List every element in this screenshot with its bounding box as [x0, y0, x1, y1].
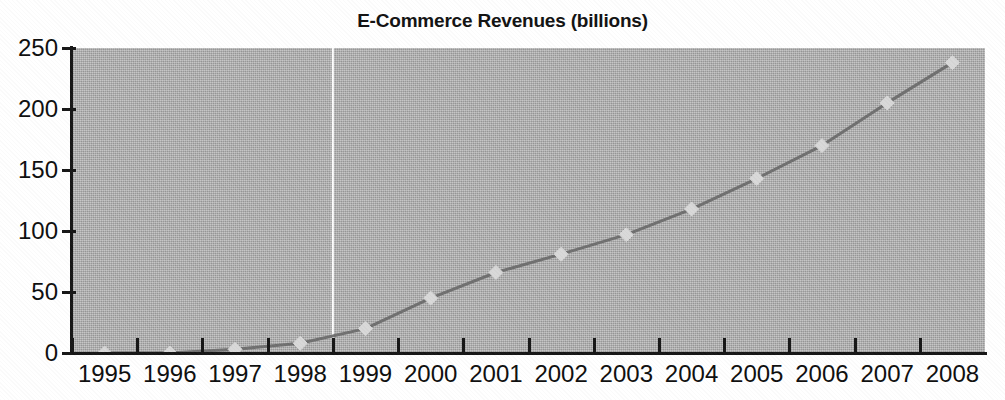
- x-axis-tick-label: 1999: [339, 360, 392, 388]
- x-axis-tick: [528, 338, 531, 353]
- x-axis-tick-label: 1995: [78, 360, 131, 388]
- x-axis-tick: [854, 338, 857, 353]
- data-point-marker: [750, 172, 764, 186]
- x-axis-tick-label: 2008: [926, 360, 979, 388]
- x-axis-tick: [267, 338, 270, 353]
- x-axis-tick-label: 2006: [795, 360, 848, 388]
- x-axis-tick-label: 2002: [534, 360, 587, 388]
- data-point-marker: [293, 336, 307, 350]
- x-axis-tick: [593, 338, 596, 353]
- data-point-marker: [424, 291, 438, 305]
- data-point-marker: [685, 202, 699, 216]
- x-axis-tick: [723, 338, 726, 353]
- data-point-marker: [945, 56, 959, 70]
- y-axis-tick-label: 200: [18, 95, 58, 123]
- x-axis-tick-label: 2005: [730, 360, 783, 388]
- y-axis-tick-label: 100: [18, 217, 58, 245]
- y-axis-tick: [62, 108, 76, 111]
- x-axis-tick-label: 1996: [143, 360, 196, 388]
- x-axis-tick: [136, 338, 139, 353]
- y-axis-tick: [62, 169, 76, 172]
- x-axis-tick: [397, 338, 400, 353]
- x-axis-tick-label: 2000: [404, 360, 457, 388]
- data-series-svg: [72, 48, 985, 353]
- x-axis-tick-label: 2007: [860, 360, 913, 388]
- series-line: [105, 63, 953, 353]
- data-point-marker: [619, 228, 633, 242]
- y-axis-tick: [62, 47, 76, 50]
- x-axis-tick: [71, 338, 74, 353]
- x-axis-tick: [201, 338, 204, 353]
- y-axis-line: [70, 46, 73, 355]
- x-axis-tick-label: 1997: [208, 360, 261, 388]
- y-axis-tick-label: 0: [45, 339, 58, 367]
- data-point-marker: [554, 247, 568, 261]
- x-axis-tick: [332, 338, 335, 353]
- x-axis-tick-label: 2003: [600, 360, 653, 388]
- data-point-marker: [358, 322, 372, 336]
- x-axis-tick: [919, 338, 922, 353]
- y-axis-tick: [62, 230, 76, 233]
- chart-container: E-Commerce Revenues (billions) 050100150…: [0, 0, 1005, 400]
- y-axis-tick: [62, 291, 76, 294]
- x-axis-tick: [788, 338, 791, 353]
- plot-area: [72, 48, 985, 353]
- x-axis-tick: [658, 338, 661, 353]
- y-axis-tick-label: 50: [31, 278, 58, 306]
- x-axis-tick-label: 2004: [665, 360, 718, 388]
- x-axis-tick: [462, 338, 465, 353]
- y-axis-tick-label: 250: [18, 34, 58, 62]
- y-axis-tick-label: 150: [18, 156, 58, 184]
- x-axis-tick-label: 2001: [469, 360, 522, 388]
- chart-title: E-Commerce Revenues (billions): [0, 10, 1005, 32]
- data-point-marker: [489, 265, 503, 279]
- x-axis-tick-label: 1998: [274, 360, 327, 388]
